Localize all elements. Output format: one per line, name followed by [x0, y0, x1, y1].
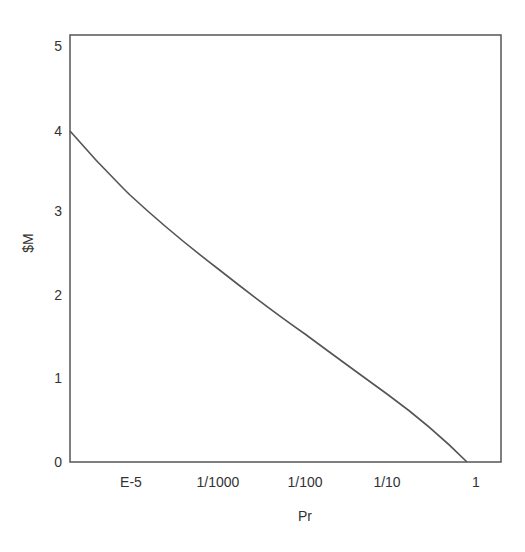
y-axis-label: $M: [20, 233, 36, 252]
data-curve: [70, 131, 467, 462]
x-axis-ticks: E-5 1/1000 1/100 1/10 1: [120, 474, 480, 490]
y-tick-label: 0: [54, 454, 62, 470]
y-tick-label: 5: [54, 38, 62, 54]
x-tick-label: 1: [472, 474, 480, 490]
y-tick-label: 3: [54, 203, 62, 219]
x-tick-label: 1/10: [373, 474, 400, 490]
y-tick-label: 2: [54, 287, 62, 303]
y-axis-ticks: 0 1 2 3 4 5: [54, 38, 62, 470]
x-tick-label: 1/100: [287, 474, 322, 490]
chart: 0 1 2 3 4 5 E-5 1/1000 1/100 1/10 1 Pr $…: [0, 0, 525, 552]
y-tick-label: 4: [54, 123, 62, 139]
y-tick-label: 1: [54, 370, 62, 386]
x-axis-label: Pr: [298, 508, 312, 524]
x-tick-label: 1/1000: [197, 474, 240, 490]
x-tick-label: E-5: [120, 474, 142, 490]
plot-frame: [70, 35, 501, 462]
